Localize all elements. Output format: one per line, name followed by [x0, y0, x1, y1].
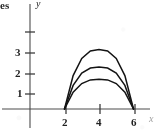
y-tick-label-1: 1	[17, 88, 23, 99]
x-tick-label-2: 2	[62, 117, 68, 128]
x-tick-label-4: 4	[96, 117, 102, 128]
y-tick-label-2: 2	[15, 68, 21, 79]
y-tick-label-3: 3	[15, 47, 21, 58]
plot-area	[0, 0, 158, 134]
x-tick-label-6: 6	[131, 117, 137, 128]
figure-canvas: es y x 3 2 1 2 4 6	[0, 0, 158, 134]
x-axis-label: x	[149, 114, 153, 124]
y-axis-label: y	[36, 0, 40, 9]
corner-fragment-text: es	[0, 0, 10, 11]
